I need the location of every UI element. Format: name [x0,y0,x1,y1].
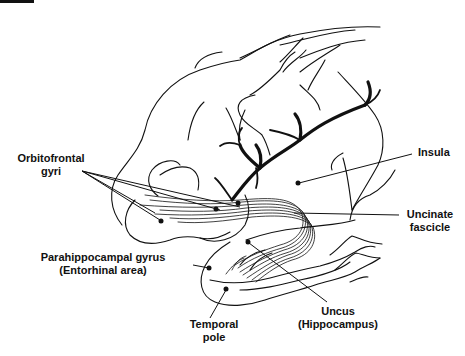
label-orbitofrontal-gyri: Orbitofrontal gyri [16,152,86,178]
label-temporal-pole: Temporal pole [186,318,242,344]
label-parahippocampal-gyrus: Parahippocampal gyrus (Entorhinal area) [38,251,168,277]
brain-outline [112,27,380,225]
label-uncinate-fascicle: Uncinate fascicle [400,208,460,234]
label-uncus-hippocampus: Uncus (Hippocampus) [296,305,380,331]
brain-diagram [0,0,465,356]
label-insula: Insula [418,146,450,159]
